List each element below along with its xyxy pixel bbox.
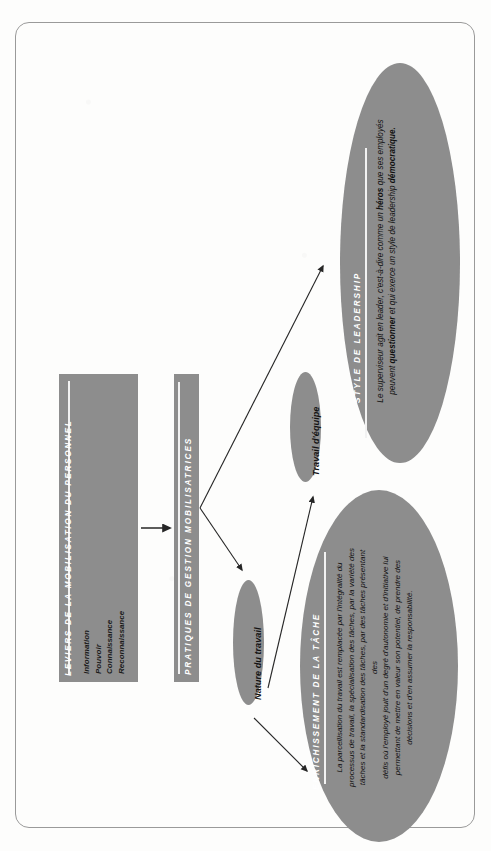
body-line: décisions et d'en assumer la responsabil… [404, 545, 416, 790]
box-leviers-item-list: Information Pouvoir Connaissance Reconna… [81, 374, 127, 674]
ellipse-enrichissement-tache[interactable]: ENRICHISSEMENT DE LA TÂCHE La parcellisa… [300, 490, 458, 842]
ellipse-travail-equipe[interactable]: Travail d'équipe [290, 372, 321, 482]
ellipse-leadership-divider [365, 148, 367, 438]
box-leviers-mobilisation[interactable]: LEVIERS DE LA MOBILISATION DU PERSONNEL … [59, 374, 138, 682]
body-emphasis: questionner [388, 317, 397, 364]
body-text: Le superviseur agit en leader, c'est-à-d… [376, 210, 385, 403]
body-line: défis où l'employé jouit d'un degré d'au… [380, 545, 392, 790]
ellipse-enrichissement-title: ENRICHISSEMENT DE LA TÂCHE [312, 490, 321, 790]
list-item: Pouvoir [93, 374, 105, 674]
body-line: processus de travail, la spécialisation … [346, 545, 358, 790]
box-pratiques-title: PRATIQUES DE GESTION MOBILISATRICES [184, 375, 193, 675]
ellipse-nature-du-travail[interactable]: Nature du travail [233, 580, 264, 705]
body-emphasis: démocratique. [388, 127, 397, 183]
list-item: Information [81, 374, 93, 674]
ellipse-leadership-title: STYLE DE LEADERSHIP [353, 103, 362, 403]
arrow-nature-to-enrichissement-lower [254, 718, 307, 771]
body-line: permettant de mettre en valeur son poten… [392, 545, 404, 790]
ellipse-equipe-label: Travail d'équipe [311, 256, 321, 476]
box-pratiques-gestion[interactable]: PRATIQUES DE GESTION MOBILISATRICES [174, 374, 199, 682]
body-emphasis: héros [376, 188, 385, 210]
ellipse-nature-label: Nature du travail [253, 480, 263, 700]
list-item: Connaissance [104, 374, 116, 674]
list-item: Reconnaissance [116, 374, 128, 674]
ellipse-style-leadership[interactable]: STYLE DE LEADERSHIP Le superviseur agit … [340, 63, 460, 463]
arrow-pratiques-to-nature [200, 508, 242, 570]
box-pratiques-divider [178, 382, 180, 674]
body-text: et qui exerce un style de leadership [388, 183, 397, 316]
body-line: La parcellisation du travail est remplac… [334, 545, 346, 790]
ellipse-enrichissement-body: La parcellisation du travail est remplac… [334, 545, 415, 790]
body-line: tâches et la standardisation des tâches,… [357, 545, 380, 790]
diagram-page: LEVIERS DE LA MOBILISATION DU PERSONNEL … [0, 0, 491, 851]
ellipse-enrichissement-divider [324, 552, 326, 784]
ellipse-leadership-body: Le superviseur agit en leader, c'est-à-d… [375, 111, 399, 411]
box-leviers-title: LEVIERS DE LA MOBILISATION DU PERSONNEL [64, 376, 73, 676]
